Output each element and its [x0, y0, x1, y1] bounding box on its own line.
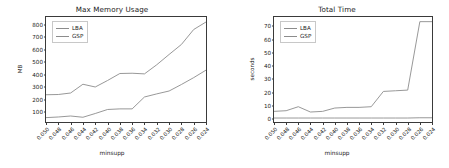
y-axis-tick-mark: [272, 79, 275, 80]
x-axis-tick-label: 0.032: [146, 126, 161, 141]
plot-area: LBA GSP 1002003004005006007008000.0500.0…: [45, 16, 207, 123]
x-axis-tick-label: 0.042: [85, 126, 100, 141]
x-axis-tick-mark: [323, 122, 324, 125]
x-axis-tick-mark: [310, 122, 311, 125]
legend-swatch-lba: [284, 28, 297, 29]
legend-label-gsp: GSP: [72, 33, 83, 39]
chart-panel-max-memory-usage: Max Memory Usage MB LBA GSP 100200300400…: [0, 0, 224, 168]
x-axis-tick-label: 0.030: [159, 126, 174, 141]
y-axis-label: MB: [17, 65, 23, 74]
y-axis-tick-mark: [44, 62, 47, 63]
y-axis-tick-label: 0: [267, 116, 271, 122]
y-axis-tick-mark: [44, 99, 47, 100]
x-axis-tick-mark: [83, 122, 84, 125]
x-axis-tick-mark: [347, 122, 348, 125]
y-axis-tick-label: 500: [32, 59, 43, 65]
x-axis-tick-mark: [371, 122, 372, 125]
y-axis-label: seconds: [249, 58, 255, 81]
x-axis-tick-label: 0.034: [134, 126, 149, 141]
x-axis-tick-mark: [335, 122, 336, 125]
x-axis-tick-mark: [144, 122, 145, 125]
x-axis-tick-mark: [194, 122, 195, 125]
y-axis-tick-mark: [272, 66, 275, 67]
x-axis-tick-mark: [359, 122, 360, 125]
x-axis-tick-mark: [58, 122, 59, 125]
legend: LBA GSP: [52, 21, 88, 43]
x-axis-tick-mark: [46, 122, 47, 125]
x-axis-tick-label: 0.044: [72, 126, 87, 141]
y-axis-tick-mark: [44, 49, 47, 50]
x-axis-tick-mark: [169, 122, 170, 125]
x-axis-tick-mark: [108, 122, 109, 125]
x-axis-tick-mark: [157, 122, 158, 125]
y-axis-tick-label: 50: [264, 50, 271, 56]
y-axis-tick-label: 60: [264, 37, 271, 43]
y-axis-tick-mark: [44, 112, 47, 113]
x-axis-label: minsupp: [0, 150, 224, 156]
y-axis-tick-mark: [272, 106, 275, 107]
legend-label-lba: LBA: [300, 25, 311, 31]
x-axis-tick-mark: [408, 122, 409, 125]
x-axis-tick-mark: [71, 122, 72, 125]
y-axis-tick-mark: [44, 74, 47, 75]
x-axis-tick-mark: [206, 122, 207, 125]
y-axis-tick-mark: [272, 92, 275, 93]
x-axis-tick-mark: [298, 122, 299, 125]
x-axis-tick-label: 0.038: [109, 126, 124, 141]
legend-item: LBA: [56, 24, 83, 32]
x-axis-tick-label: 0.028: [171, 126, 186, 141]
y-axis-tick-label: 400: [32, 72, 43, 78]
y-axis-tick-mark: [44, 37, 47, 38]
x-axis-tick-mark: [432, 122, 433, 125]
y-axis-tick-label: 10: [264, 103, 271, 109]
x-axis-tick-label: 0.048: [48, 126, 63, 141]
x-axis-tick-label: 0.040: [97, 126, 112, 141]
legend-label-gsp: GSP: [300, 33, 311, 39]
x-axis-tick-label: 0.026: [183, 126, 198, 141]
y-axis-tick-label: 700: [32, 34, 43, 40]
y-axis-tick-mark: [272, 52, 275, 53]
chart-title: Total Time: [225, 5, 449, 14]
x-axis-tick-mark: [383, 122, 384, 125]
legend-swatch-lba: [56, 28, 69, 29]
y-axis-tick-mark: [272, 119, 275, 120]
x-axis-tick-mark: [274, 122, 275, 125]
legend-item: GSP: [284, 32, 311, 40]
x-axis-tick-label: 0.046: [60, 126, 75, 141]
y-axis-tick-label: 300: [32, 84, 43, 90]
legend-swatch-gsp: [56, 36, 69, 37]
legend-label-lba: LBA: [72, 25, 83, 31]
x-axis-tick-label: 0.036: [122, 126, 137, 141]
x-axis-tick-label: 0.024: [195, 126, 210, 141]
x-axis-tick-mark: [95, 122, 96, 125]
y-axis-tick-mark: [272, 26, 275, 27]
y-axis-tick-label: 30: [264, 76, 271, 82]
x-axis-tick-mark: [132, 122, 133, 125]
x-axis-tick-mark: [181, 122, 182, 125]
plot-area: LBA GSP 0102030405060700.0500.0480.0460.…: [273, 16, 433, 123]
y-axis-tick-label: 800: [32, 22, 43, 28]
x-axis-tick-mark: [120, 122, 121, 125]
y-axis-tick-label: 20: [264, 90, 271, 96]
y-axis-tick-mark: [44, 86, 47, 87]
series-line-lba: [46, 70, 206, 117]
legend-swatch-gsp: [284, 36, 297, 37]
y-axis-tick-label: 100: [32, 109, 43, 115]
y-axis-tick-mark: [272, 39, 275, 40]
x-axis-tick-mark: [420, 122, 421, 125]
y-axis-tick-label: 200: [32, 97, 43, 103]
legend-item: GSP: [56, 32, 83, 40]
x-axis-label: minsupp: [225, 150, 449, 156]
y-axis-tick-label: 40: [264, 63, 271, 69]
chart-title: Max Memory Usage: [0, 5, 224, 14]
y-axis-tick-label: 600: [32, 47, 43, 53]
y-axis-tick-label: 70: [264, 23, 271, 29]
x-axis-tick-label: 0.050: [35, 126, 50, 141]
x-axis-tick-mark: [286, 122, 287, 125]
figure-canvas: Max Memory Usage MB LBA GSP 100200300400…: [0, 0, 449, 168]
legend-item: LBA: [284, 24, 311, 32]
y-axis-tick-mark: [44, 24, 47, 25]
x-axis-tick-mark: [396, 122, 397, 125]
legend: LBA GSP: [280, 21, 316, 43]
